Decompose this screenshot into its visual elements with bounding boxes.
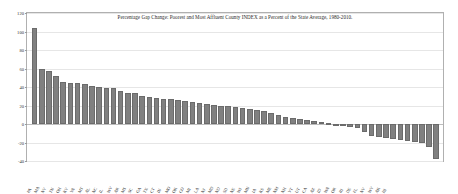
bar	[204, 104, 210, 124]
bar	[347, 124, 353, 127]
y-tick-label: 80	[19, 48, 24, 53]
bar-slot	[160, 13, 167, 161]
bar-slot	[96, 13, 103, 161]
bar-slot	[88, 13, 95, 161]
bar-slot	[74, 13, 81, 161]
bar-slot	[139, 13, 146, 161]
x-tick-label: CA	[301, 186, 308, 194]
bar	[125, 93, 131, 124]
bar	[426, 124, 432, 147]
bar-slot	[81, 13, 88, 161]
y-tick-mark	[25, 69, 27, 70]
y-tick-label: 60	[19, 66, 24, 71]
bar-slot	[232, 13, 239, 161]
bar-slot	[361, 13, 368, 161]
bar	[147, 97, 153, 124]
x-tick-label: ND	[214, 186, 221, 194]
bar	[240, 108, 246, 124]
bar	[369, 124, 375, 136]
bar	[376, 124, 382, 137]
bar-series	[31, 13, 440, 161]
bar	[419, 124, 425, 143]
bar	[311, 121, 317, 124]
bar	[247, 109, 253, 124]
y-tick-label: 120	[17, 11, 24, 16]
bar-slot	[296, 13, 303, 161]
x-tick-label: NM	[272, 186, 280, 194]
bar	[283, 117, 289, 124]
x-tick-label: PA	[26, 187, 33, 194]
bar	[362, 124, 368, 132]
y-tick-label: 40	[19, 85, 24, 90]
bar-slot	[146, 13, 153, 161]
x-tick-label: MN	[243, 186, 251, 194]
bar	[46, 71, 52, 124]
y-tick-mark	[25, 161, 27, 162]
bar-slot	[268, 13, 275, 161]
y-tick-label: 0	[22, 122, 24, 127]
gridline	[27, 161, 443, 162]
x-tick-label: NY	[40, 186, 47, 194]
bar	[111, 88, 117, 124]
bar	[154, 98, 160, 124]
bar-slot	[339, 13, 346, 161]
bar	[96, 87, 102, 124]
x-tick-label: NV	[359, 186, 366, 194]
bar-slot	[239, 13, 246, 161]
bar-slot	[167, 13, 174, 161]
bar-slot	[289, 13, 296, 161]
bar-slot	[196, 13, 203, 161]
bar	[53, 76, 59, 124]
bar	[104, 88, 110, 124]
bar-slot	[210, 13, 217, 161]
bar-slot	[203, 13, 210, 161]
bar-slot	[103, 13, 110, 161]
y-tick-mark	[25, 143, 27, 144]
chart-title: Percentage Gap Change: Poorest and Most …	[26, 13, 444, 21]
bar	[75, 83, 81, 124]
bar	[218, 106, 224, 125]
bar	[39, 69, 45, 125]
bar-slot	[217, 13, 224, 161]
bar-slot	[397, 13, 404, 161]
bar	[340, 124, 346, 126]
chart-figure: 120100806040200-20-40 Percentage Gap Cha…	[0, 0, 458, 194]
bar	[326, 123, 332, 125]
bar-slot	[347, 13, 354, 161]
bar	[182, 101, 188, 124]
bar	[190, 102, 196, 124]
bar	[211, 105, 217, 124]
bar-slot	[189, 13, 196, 161]
bar	[225, 106, 231, 124]
y-tick-mark	[25, 124, 27, 125]
bar-slot	[368, 13, 375, 161]
bar-slot	[325, 13, 332, 161]
bar	[68, 83, 74, 124]
bar-slot	[124, 13, 131, 161]
bar-slot	[304, 13, 311, 161]
bar	[412, 124, 418, 142]
bar-slot	[332, 13, 339, 161]
bar	[383, 124, 389, 138]
bar	[60, 82, 66, 124]
bar	[297, 119, 303, 124]
bar	[89, 86, 95, 124]
y-tick-mark	[25, 87, 27, 88]
bar	[433, 124, 439, 159]
bar	[32, 28, 38, 124]
bar	[333, 124, 339, 126]
bar	[254, 110, 260, 124]
y-tick-label: 100	[17, 29, 24, 34]
bar-slot	[382, 13, 389, 161]
bar-slot	[411, 13, 418, 161]
bar-slot	[318, 13, 325, 161]
y-tick-mark	[25, 50, 27, 51]
plot-area: 120100806040200-20-40	[26, 12, 444, 162]
bar-slot	[261, 13, 268, 161]
y-tick-mark	[25, 32, 27, 33]
bar-slot	[354, 13, 361, 161]
bar	[175, 100, 181, 124]
bar	[161, 99, 167, 124]
bar-slot	[311, 13, 318, 161]
y-tick-label: -20	[18, 140, 24, 145]
